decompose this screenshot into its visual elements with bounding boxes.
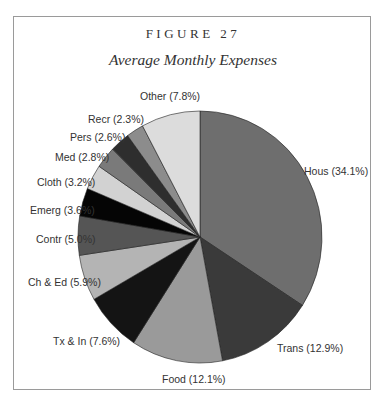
slice-label-cloth: Cloth (3.2%)	[37, 176, 95, 188]
slice-label-hous: Hous (34.1%)	[304, 165, 368, 177]
slice-label-med: Med (2.8%)	[55, 151, 109, 163]
slice-label-trans: Trans (12.9%)	[277, 342, 343, 354]
slice-label-pers: Pers (2.6%)	[70, 131, 125, 143]
slice-label-tx-in: Tx & In (7.6%)	[53, 335, 120, 347]
slice-label-contr: Contr (5.0%)	[36, 233, 96, 245]
slice-label-ch-ed: Ch & Ed (5.9%)	[28, 276, 101, 288]
slice-label-other: Other (7.8%)	[140, 90, 200, 102]
slice-label-food: Food (12.1%)	[162, 373, 226, 385]
slice-label-recr: Recr (2.3%)	[88, 113, 144, 125]
pie-chart: Hous (34.1%)Trans (12.9%)Food (12.1%)Tx …	[0, 0, 386, 408]
slice-label-emerg: Emerg (3.6%)	[30, 204, 95, 216]
